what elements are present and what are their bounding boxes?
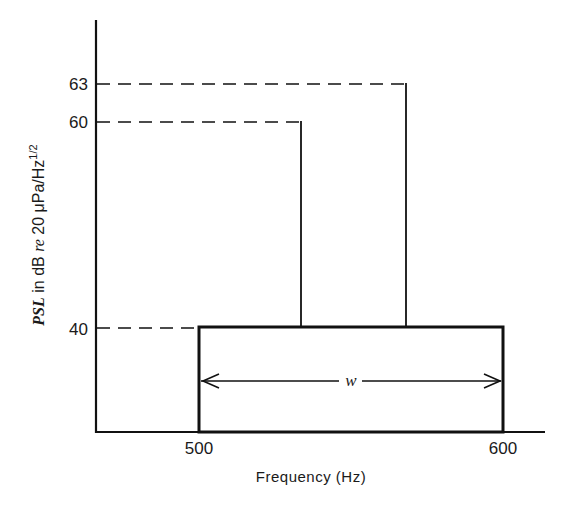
y-axis-label: PSL in dB re 20 μPa/Hz1/2: [27, 144, 47, 326]
y-label-ref: 20 μPa/Hz: [30, 160, 47, 239]
svg-text:PSL in dB re 20 μPa/Hz1/2: PSL in dB re 20 μPa/Hz1/2: [27, 144, 47, 326]
x-axis-label: Frequency (Hz): [256, 468, 366, 485]
y-tick-60: 60: [69, 113, 88, 132]
y-tick-63: 63: [69, 75, 88, 94]
x-tick-500: 500: [185, 439, 213, 458]
y-label-re: re: [30, 239, 47, 252]
y-tick-40: 40: [69, 320, 88, 339]
y-label-psl: PSL: [30, 297, 47, 327]
chart: w 63 60 40 500 600 Frequency (Hz) PSL in…: [0, 0, 577, 510]
y-label-exp: 1/2: [27, 144, 39, 159]
x-tick-600: 600: [489, 439, 517, 458]
bandwidth-label: w: [345, 371, 357, 390]
y-label-in-db: in dB: [30, 252, 47, 297]
